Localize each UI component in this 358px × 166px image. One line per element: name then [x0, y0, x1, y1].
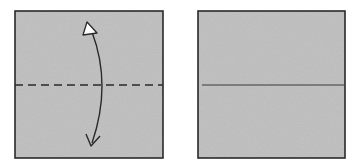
- origami-diagram: [0, 0, 358, 166]
- step-1-panel: [15, 11, 163, 158]
- step-2-panel: [198, 11, 345, 158]
